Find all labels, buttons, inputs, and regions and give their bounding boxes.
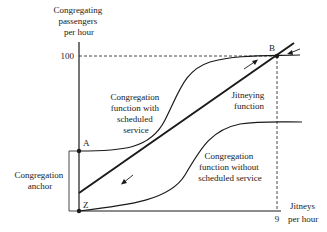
point-b <box>275 54 279 58</box>
point-a-label: A <box>83 138 90 148</box>
y-tick-100: 100 <box>61 51 75 61</box>
anchor-bracket <box>69 151 78 211</box>
label-without-service: Congregation function without scheduled … <box>198 151 262 183</box>
arrow-up-right-icon <box>244 60 258 70</box>
congregation-jitney-diagram: Congregating passengers per hour 100 9 J… <box>0 0 327 232</box>
curve-without-service <box>79 122 302 211</box>
label-with-service: Congregation function with scheduled ser… <box>110 92 161 135</box>
anchor-label: Congregation anchor <box>14 170 65 191</box>
x-axis-label: Jitneys per hour <box>288 201 318 224</box>
point-z-label: Z <box>83 200 89 210</box>
x-tick-9: 9 <box>275 214 280 224</box>
point-b-label: B <box>269 43 275 53</box>
y-axis-label: Congregating passengers per hour <box>53 5 104 37</box>
jitneying-line <box>79 43 294 193</box>
label-jitneying: Jitneying function <box>231 90 266 111</box>
arrow-left-near-b-icon <box>287 49 300 55</box>
arrow-down-left-icon <box>121 175 133 185</box>
